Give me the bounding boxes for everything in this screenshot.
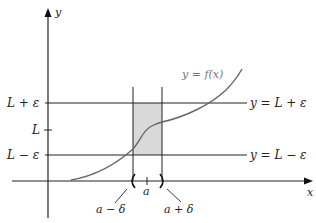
curve-label: y = f(x) xyxy=(181,68,223,81)
label-a: a xyxy=(143,185,150,198)
epsilon-delta-diagram: y x y = f(x) L + ε L L − ε y = L + ε y =… xyxy=(0,0,316,223)
label-a-plus-delta: a + δ xyxy=(164,203,194,216)
x-axis-arrow-icon xyxy=(304,178,313,185)
y-axis-label: y xyxy=(54,6,62,19)
y-axis-arrow-icon xyxy=(45,8,52,17)
leader-a-minus-delta xyxy=(115,189,127,203)
label-L: L xyxy=(31,123,40,137)
label-y-equals-L-plus-epsilon: y = L + ε xyxy=(249,96,307,110)
label-L-plus-epsilon: L + ε xyxy=(6,96,39,110)
label-y-equals-L-minus-epsilon: y = L − ε xyxy=(249,148,307,162)
label-a-minus-delta: a − δ xyxy=(96,203,126,216)
label-L-minus-epsilon: L − ε xyxy=(6,148,39,162)
x-axis-label: x xyxy=(307,186,314,199)
leader-a-plus-delta xyxy=(167,189,181,202)
